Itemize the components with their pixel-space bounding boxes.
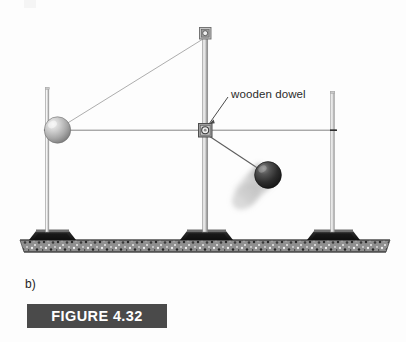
upper-support-string [58, 39, 203, 129]
figure-caption-banner: FIGURE 4.32 [27, 304, 167, 328]
left-stand-base [29, 230, 76, 241]
right-pole [330, 91, 335, 232]
light-ball [44, 117, 70, 143]
dowel-pointer-line [209, 97, 228, 124]
ground-surface [20, 240, 390, 252]
pivot-clamp-icon [199, 124, 213, 138]
apparatus-illustration [0, 0, 406, 262]
wooden-dowel-label: wooden dowel [231, 88, 306, 101]
dark-ball [255, 162, 282, 189]
figure-part-label: b) [25, 277, 36, 291]
left-pole [45, 87, 49, 232]
figure-page: wooden dowel b) FIGURE 4.32 [0, 0, 406, 342]
figure-caption-text: FIGURE 4.32 [51, 308, 142, 324]
lower-swing-string [206, 134, 262, 171]
top-clamp-icon [200, 28, 212, 40]
